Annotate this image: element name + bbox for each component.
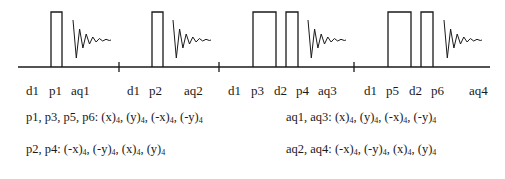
timing-label-aq3: aq3: [318, 84, 337, 97]
timing-label-d1: d1: [364, 84, 377, 97]
phase-value: (x)4: [122, 142, 141, 156]
pulse-p1: [51, 12, 62, 67]
pulse-p4: [286, 12, 298, 67]
pulse-p2: [152, 12, 163, 67]
phase-value: (-y)4: [93, 142, 116, 156]
phase-cycle-row: p1, p3, p5, p6: (x)4, (y)4, (-x)4, (-y)4: [26, 110, 203, 128]
phase-value: (y)4: [418, 142, 437, 156]
timing-label-p5: p5: [386, 84, 399, 97]
phase-value: (x)4: [335, 110, 354, 124]
phase-value: (x)4: [101, 110, 120, 124]
phase-value: (-y)4: [364, 142, 387, 156]
timing-label-d1: d1: [228, 84, 241, 97]
phase-cycle-label: p1, p3, p5, p6:: [26, 110, 101, 124]
phase-cycle-row: aq1, aq3: (x)4, (y)4, (-x)4, (-y)4: [286, 110, 436, 128]
phase-cycle-label: aq2, aq4:: [286, 142, 335, 156]
phase-value: (y)4: [126, 110, 145, 124]
pulse-p3: [253, 12, 276, 67]
phase-value: (y)4: [360, 110, 379, 124]
timing-label-d2: d2: [274, 84, 287, 97]
timing-label-d2: d2: [409, 84, 422, 97]
phase-value: (-x)4: [335, 142, 358, 156]
fid-aq4: [444, 20, 482, 58]
timing-label-p1: p1: [49, 84, 62, 97]
timing-label-aq2: aq2: [184, 84, 203, 97]
pulse-p6: [421, 12, 433, 67]
phase-cycle-row: p2, p4: (-x)4, (-y)4, (x)4, (y)4: [26, 142, 165, 160]
phase-cycle-label: aq1, aq3:: [286, 110, 335, 124]
pulse-p5: [388, 12, 411, 67]
fid-aq1: [73, 20, 111, 58]
phase-value: (x)4: [393, 142, 412, 156]
timing-label-p2: p2: [149, 84, 162, 97]
phase-value: (-x)4: [151, 110, 174, 124]
phase-value: (-x)4: [64, 142, 87, 156]
phase-cycle-row: aq2, aq4: (-x)4, (-y)4, (x)4, (y)4: [286, 142, 436, 160]
phase-value: (-y)4: [180, 110, 203, 124]
timing-label-aq1: aq1: [71, 84, 90, 97]
phase-value: (-y)4: [414, 110, 437, 124]
timing-label-p3: p3: [251, 84, 264, 97]
timing-label-p6: p6: [431, 84, 444, 97]
fid-aq2: [173, 20, 211, 58]
timing-label-p4: p4: [296, 84, 309, 97]
timing-label-d1: d1: [127, 84, 140, 97]
timing-label-d1: d1: [26, 84, 39, 97]
phase-value: (-x)4: [385, 110, 408, 124]
phase-cycle-label: p2, p4:: [26, 142, 64, 156]
phase-value: (y)4: [147, 142, 166, 156]
timing-label-aq4: aq4: [469, 84, 488, 97]
fid-aq3: [308, 20, 346, 58]
